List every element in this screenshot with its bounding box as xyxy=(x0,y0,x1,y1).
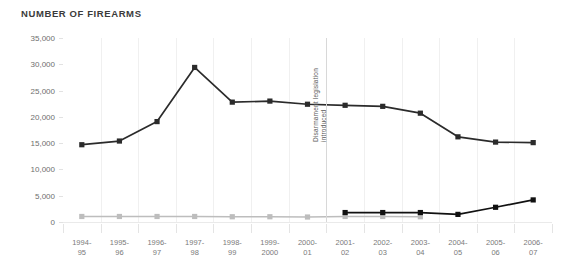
x-tick-label: 1999-2000 xyxy=(260,238,279,257)
x-tick-label-line: 1995- xyxy=(110,238,129,248)
y-tick-label: 30,000 xyxy=(31,60,55,69)
x-tick-separator xyxy=(439,224,440,233)
x-tick-label-line: 07 xyxy=(524,248,543,258)
annotation-label-line: Disarmament legislation xyxy=(312,68,320,142)
x-tick-label-line: 2002- xyxy=(373,238,392,248)
y-tick-label: 10,000 xyxy=(31,165,55,174)
x-tick-separator xyxy=(402,224,403,233)
y-tick-mark xyxy=(59,196,63,197)
x-tick-label-line: 98 xyxy=(185,248,204,258)
x-tick-separator xyxy=(552,224,553,233)
x-tick-separator xyxy=(213,224,214,233)
gridline-vertical xyxy=(101,38,102,222)
y-tick-label: 15,000 xyxy=(31,139,55,148)
x-tick-label-line: 03 xyxy=(373,248,392,258)
x-tick-label: 2004-05 xyxy=(448,238,467,257)
x-tick-label-line: 05 xyxy=(448,248,467,258)
y-tick-mark xyxy=(59,169,63,170)
y-tick-mark xyxy=(59,38,63,39)
x-axis: 1994-951995-961996-971997-981998-991999-… xyxy=(63,224,552,272)
x-tick-label: 2006-07 xyxy=(524,238,543,257)
x-tick-label: 2003-04 xyxy=(411,238,430,257)
x-tick-label-line: 02 xyxy=(336,248,355,258)
x-tick-separator xyxy=(514,224,515,233)
x-tick-label: 2000-01 xyxy=(298,238,317,257)
x-tick-label-line: 95 xyxy=(72,248,91,258)
y-tick-label: 20,000 xyxy=(31,112,55,121)
x-tick-separator xyxy=(63,224,64,233)
x-tick-label-line: 96 xyxy=(110,248,129,258)
x-tick-label: 2005-06 xyxy=(486,238,505,257)
x-tick-label-line: 1999- xyxy=(260,238,279,248)
gridline-vertical xyxy=(364,38,365,222)
chart-title: NUMBER OF FIREARMS xyxy=(21,8,142,19)
y-tick-mark xyxy=(59,143,63,144)
x-tick-separator xyxy=(364,224,365,233)
x-tick-label: 1994-95 xyxy=(72,238,91,257)
gridline-vertical xyxy=(213,38,214,222)
gridline-vertical xyxy=(514,38,515,222)
x-tick-label-line: 01 xyxy=(298,248,317,258)
firearms-line-chart: NUMBER OF FIREARMS 35,00030,00025,00020,… xyxy=(0,0,568,275)
x-tick-label-line: 2006- xyxy=(524,238,543,248)
x-tick-label-line: 06 xyxy=(486,248,505,258)
x-tick-label: 2001-02 xyxy=(336,238,355,257)
x-tick-label-line: 97 xyxy=(147,248,166,258)
y-tick-mark xyxy=(59,117,63,118)
x-tick-separator xyxy=(176,224,177,233)
x-tick-label: 2002-03 xyxy=(373,238,392,257)
x-tick-label: 1995-96 xyxy=(110,238,129,257)
x-tick-label-line: 2003- xyxy=(411,238,430,248)
x-tick-label: 1996-97 xyxy=(147,238,166,257)
y-tick-mark xyxy=(59,91,63,92)
x-tick-label-line: 1998- xyxy=(223,238,242,248)
axis-baseline xyxy=(63,222,552,223)
x-tick-label-line: 04 xyxy=(411,248,430,258)
y-tick-label: 35,000 xyxy=(31,34,55,43)
x-tick-label-line: 2005- xyxy=(486,238,505,248)
x-tick-label-line: 99 xyxy=(223,248,242,258)
x-tick-separator xyxy=(251,224,252,233)
y-tick-label: 0 xyxy=(51,218,55,227)
x-tick-label-line: 2001- xyxy=(336,238,355,248)
x-tick-separator xyxy=(477,224,478,233)
gridline-vertical xyxy=(176,38,177,222)
x-tick-label: 1997-98 xyxy=(185,238,204,257)
annotation-label-line: introduced xyxy=(320,68,328,142)
x-tick-separator xyxy=(289,224,290,233)
y-tick-mark xyxy=(59,64,63,65)
y-tick-label: 5,000 xyxy=(35,191,55,200)
plot-area xyxy=(63,38,552,222)
gridline-vertical xyxy=(138,38,139,222)
y-axis: 35,00030,00025,00020,00015,00010,0005,00… xyxy=(0,38,55,222)
x-tick-label-line: 1997- xyxy=(185,238,204,248)
gridline-vertical xyxy=(477,38,478,222)
x-tick-label-line: 2000 xyxy=(260,248,279,258)
gridline-vertical xyxy=(402,38,403,222)
x-tick-label-line: 2000- xyxy=(298,238,317,248)
gridline-vertical xyxy=(251,38,252,222)
annotation-label: Disarmament legislationintroduced xyxy=(312,68,328,142)
x-tick-separator xyxy=(138,224,139,233)
x-tick-label-line: 2004- xyxy=(448,238,467,248)
x-tick-label: 1998-99 xyxy=(223,238,242,257)
y-tick-mark xyxy=(59,222,63,223)
y-tick-label: 25,000 xyxy=(31,86,55,95)
gridline-vertical xyxy=(289,38,290,222)
x-tick-label-line: 1994- xyxy=(72,238,91,248)
x-tick-separator xyxy=(326,224,327,233)
x-tick-label-line: 1996- xyxy=(147,238,166,248)
gridline-vertical xyxy=(439,38,440,222)
x-tick-separator xyxy=(101,224,102,233)
